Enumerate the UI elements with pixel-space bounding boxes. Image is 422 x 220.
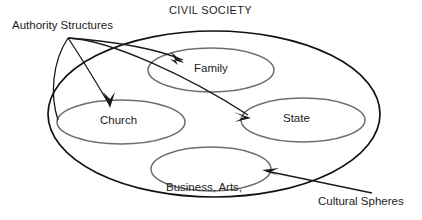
connector-authority-band-left	[53, 38, 68, 120]
connector-authority-to-church	[68, 38, 109, 104]
node-label-state: State	[283, 112, 310, 125]
node-label-business-line1: Business, Arts,	[166, 181, 242, 194]
connector-authority-to-family	[68, 38, 183, 60]
label-cultural-spheres: Cultural Spheres	[318, 195, 404, 208]
diagram-title: CIVIL SOCIETY	[169, 4, 252, 16]
node-label-business-arts-medicine: Business, Arts, Medicine, etc.	[166, 155, 242, 220]
label-authority-structures: Authority Structures	[12, 19, 113, 32]
node-label-church: Church	[100, 114, 137, 127]
arrowhead-state	[234, 112, 251, 122]
civil-society-diagram: CIVIL SOCIETY Authority Structures Cultu…	[0, 0, 422, 220]
arrowhead-family	[170, 52, 184, 65]
node-label-business-line2: Medicine, etc.	[166, 219, 242, 220]
node-label-family: Family	[194, 62, 228, 75]
